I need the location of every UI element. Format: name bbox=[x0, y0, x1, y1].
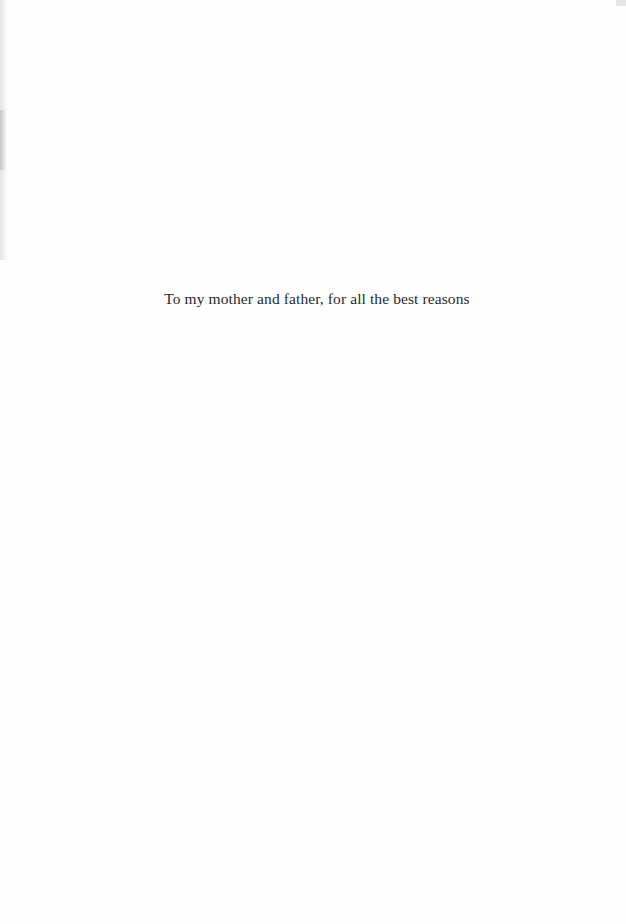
page-corner-mark bbox=[616, 0, 626, 6]
page-edge-shadow-mark bbox=[0, 110, 7, 170]
dedication-text: To my mother and father, for all the bes… bbox=[0, 289, 626, 309]
book-page: To my mother and father, for all the bes… bbox=[0, 0, 626, 924]
